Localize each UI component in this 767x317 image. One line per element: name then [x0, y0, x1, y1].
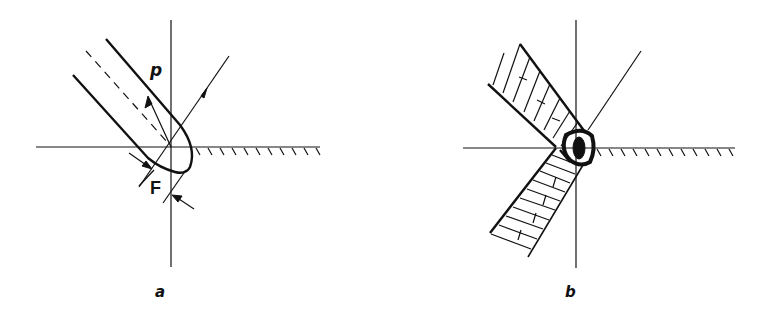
beam-outline [73, 39, 192, 173]
surface-hatching [597, 149, 733, 156]
lower-hatched-band [490, 148, 583, 257]
reflected-arrow [149, 99, 171, 147]
label-p: p [149, 60, 162, 80]
figure-canvas: p F a [0, 0, 767, 317]
surface-hatching [196, 148, 320, 155]
incident-ray [588, 51, 641, 130]
caption-a: a [155, 283, 165, 301]
panel-a [36, 20, 320, 267]
force-arrowhead-left [142, 161, 152, 169]
label-f: F [150, 178, 161, 198]
incident-arrowhead [201, 88, 207, 98]
panel-b [463, 20, 735, 268]
caption-b: b [565, 283, 576, 301]
force-arrowhead-right [172, 195, 182, 202]
reflected-arrowhead [145, 96, 152, 108]
